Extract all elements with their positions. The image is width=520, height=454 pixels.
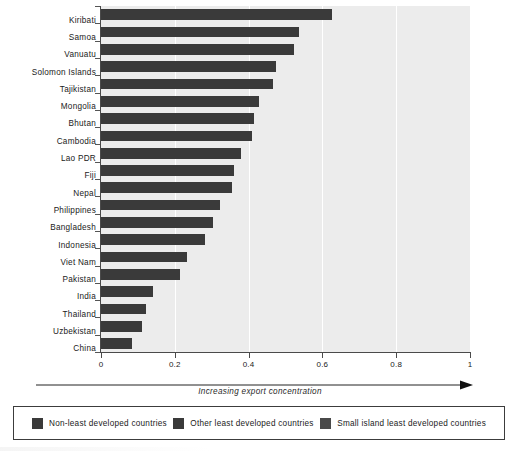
bar	[101, 165, 234, 176]
bar-row	[101, 162, 470, 179]
y-axis-line	[100, 6, 101, 353]
bar	[101, 96, 259, 107]
bar	[101, 27, 299, 38]
bar	[101, 200, 220, 211]
legend-label: Other least developed countries	[190, 419, 313, 428]
legend-label: Small island least developed countries	[337, 419, 486, 428]
bar	[101, 338, 132, 349]
bar	[101, 61, 276, 72]
bar-row	[101, 283, 470, 300]
bottom-artifact-strip	[0, 447, 210, 451]
category-label: Fiji	[0, 171, 96, 181]
legend-swatch	[32, 418, 43, 429]
bar	[101, 148, 241, 159]
bar	[101, 44, 294, 55]
x-axis-tick-label: 1	[455, 360, 485, 369]
bar	[101, 182, 232, 193]
bar-row	[101, 93, 470, 110]
bar-row	[101, 41, 470, 58]
legend-label: Non-least developed countries	[49, 419, 167, 428]
bar-row	[101, 179, 470, 196]
bar	[101, 304, 146, 315]
legend-item: Non-least developed countries	[32, 418, 167, 429]
category-label: Nepal	[0, 189, 96, 199]
bar-row	[101, 231, 470, 248]
x-axis-title: Increasing export concentration	[0, 387, 520, 396]
legend-item: Other least developed countries	[173, 418, 313, 429]
category-label: Solomon Islands	[0, 68, 96, 78]
legend-swatch	[173, 418, 184, 429]
legend-item: Small island least developed countries	[320, 418, 486, 429]
bar	[101, 79, 273, 90]
x-axis-tick	[470, 353, 471, 358]
category-label: Samoa	[0, 33, 96, 43]
bar-row	[101, 75, 470, 92]
category-label: Vanuatu	[0, 50, 96, 60]
bar-row	[101, 248, 470, 265]
x-axis-tick	[101, 353, 102, 358]
bar	[101, 131, 252, 142]
bar	[101, 9, 332, 20]
x-axis-line	[101, 352, 471, 353]
category-label: China	[0, 344, 96, 354]
x-axis-tick-label: 0.6	[307, 360, 337, 369]
bar-row	[101, 266, 470, 283]
category-label: Uzbekistan	[0, 327, 96, 337]
bar	[101, 113, 254, 124]
bar-chart: KiribatiSamoaVanuatuSolomon IslandsTajik…	[0, 0, 520, 454]
bar-row	[101, 317, 470, 334]
bar	[101, 321, 142, 332]
bar	[101, 252, 187, 263]
bar-row	[101, 335, 470, 352]
x-axis-tick	[175, 353, 176, 358]
category-label: Thailand	[0, 310, 96, 320]
category-label: Philippines	[0, 206, 96, 216]
category-label: Bangladesh	[0, 223, 96, 233]
legend-items: Non-least developed countriesOther least…	[14, 407, 504, 439]
category-label: Bhutan	[0, 119, 96, 129]
bar-row	[101, 58, 470, 75]
category-label: Pakistan	[0, 275, 96, 285]
bar	[101, 286, 153, 297]
bar	[101, 234, 205, 245]
bar-row	[101, 110, 470, 127]
x-axis-tick	[249, 353, 250, 358]
x-axis-tick-label: 0.8	[381, 360, 411, 369]
x-axis-tick	[322, 353, 323, 358]
bar-row	[101, 127, 470, 144]
gridline	[470, 6, 471, 352]
category-label: Kiribati	[0, 16, 96, 26]
legend: Non-least developed countriesOther least…	[13, 406, 505, 440]
x-axis-tick-label: 0.4	[234, 360, 264, 369]
category-label: Viet Nam	[0, 258, 96, 268]
category-axis-labels: KiribatiSamoaVanuatuSolomon IslandsTajik…	[0, 6, 96, 352]
bar-row	[101, 196, 470, 213]
category-label: Cambodia	[0, 137, 96, 147]
legend-swatch	[320, 418, 331, 429]
bar	[101, 217, 213, 228]
x-axis-tick-label: 0	[86, 360, 116, 369]
bar-rows	[101, 6, 470, 352]
x-axis-tick-label: 0.2	[160, 360, 190, 369]
bar	[101, 269, 180, 280]
bar-row	[101, 214, 470, 231]
category-label: Mongolia	[0, 102, 96, 112]
bar-row	[101, 6, 470, 23]
category-label: Lao PDR	[0, 154, 96, 164]
bar-row	[101, 23, 470, 40]
category-label: India	[0, 292, 96, 302]
category-label: Tajikistan	[0, 85, 96, 95]
plot-area	[101, 6, 470, 352]
bar-row	[101, 144, 470, 161]
x-axis-tick	[396, 353, 397, 358]
category-label: Indonesia	[0, 241, 96, 251]
bar-row	[101, 300, 470, 317]
